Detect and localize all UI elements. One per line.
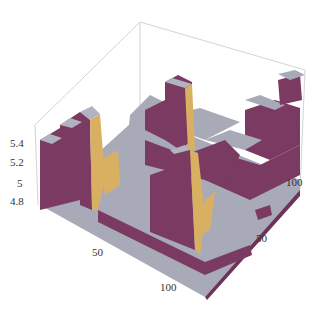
surface [40, 70, 305, 300]
z-axis: 5.4 5.2 5 4.8 [10, 137, 24, 207]
bar3d-plot: 5.4 5.2 5 4.8 50 100 50 100 [0, 0, 322, 315]
x-tick: 50 [92, 246, 104, 258]
z-tick: 5.2 [10, 156, 24, 168]
z-tick: 4.8 [10, 195, 24, 207]
y-tick: 50 [256, 232, 268, 244]
y-tick: 100 [286, 176, 303, 188]
x-tick: 100 [160, 281, 177, 293]
z-tick: 5.4 [10, 137, 24, 149]
z-tick: 5 [17, 177, 23, 189]
